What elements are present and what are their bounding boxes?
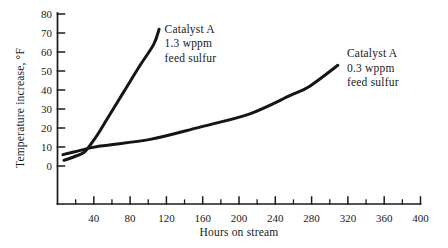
svg-text:40: 40	[88, 212, 100, 224]
series-label-line: 0.3 wppm	[347, 61, 399, 76]
svg-text:40: 40	[41, 84, 53, 96]
svg-text:240: 240	[267, 212, 284, 224]
svg-text:200: 200	[231, 212, 248, 224]
series-label-line: 1.3 wppm	[165, 36, 217, 51]
series-label-line: feed sulfur	[165, 51, 217, 66]
series-label-line: feed sulfur	[347, 75, 399, 90]
svg-text:70: 70	[41, 27, 53, 39]
svg-text:320: 320	[340, 212, 357, 224]
svg-text:30: 30	[41, 103, 53, 115]
svg-text:0: 0	[47, 160, 53, 172]
svg-text:20: 20	[41, 122, 53, 134]
x-axis-label-text: Hours on stream	[199, 226, 278, 238]
svg-text:50: 50	[41, 65, 53, 77]
svg-text:400: 400	[412, 212, 429, 224]
svg-text:120: 120	[158, 212, 175, 224]
series-label-1-3-wppm: Catalyst A 1.3 wppm feed sulfur	[165, 22, 217, 66]
series-label-line: Catalyst A	[165, 22, 217, 37]
series-label-0-3-wppm: Catalyst A 0.3 wppm feed sulfur	[347, 46, 399, 90]
chart-figure: 4080120160200240280320360400010203040506…	[0, 0, 448, 248]
y-axis-label-text: Temperature increase, °F	[14, 48, 26, 168]
svg-text:80: 80	[125, 212, 137, 224]
svg-text:80: 80	[41, 8, 53, 20]
series-curve	[63, 65, 338, 154]
chart-canvas: 4080120160200240280320360400010203040506…	[0, 0, 448, 248]
x-axis-label: Hours on stream	[57, 226, 421, 238]
svg-text:60: 60	[41, 46, 53, 58]
svg-text:280: 280	[303, 212, 320, 224]
svg-text:10: 10	[41, 141, 53, 153]
series-label-line: Catalyst A	[347, 46, 399, 61]
svg-text:160: 160	[194, 212, 211, 224]
svg-text:360: 360	[376, 212, 393, 224]
